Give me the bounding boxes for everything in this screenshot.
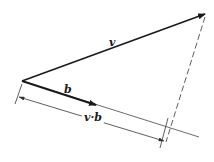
vector-projection-diagram: v b v·b [0,0,214,162]
label-v-dot-b: v·b [84,111,102,124]
label-v: v [109,36,116,49]
perpendicular-dashed-line [166,17,205,142]
dimension-right-tick [160,118,168,148]
label-b: b [64,83,72,96]
dimension-left-tick [15,84,22,104]
